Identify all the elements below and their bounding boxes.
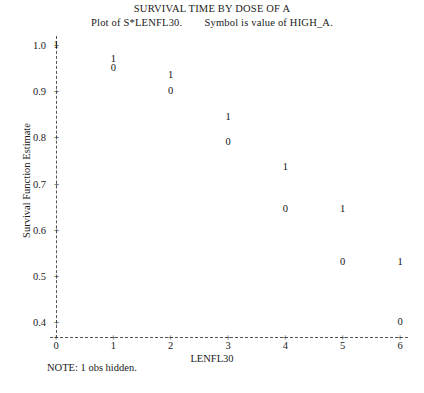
data-point-marker: 1 (50, 39, 62, 51)
data-point-marker: 0 (394, 316, 406, 328)
x-axis-tick-label: 5 (333, 340, 353, 352)
chart-subtitle: Plot of S*LENFL30.Symbol is value of HIG… (0, 16, 424, 29)
x-axis-tick-label: 4 (275, 340, 295, 352)
chart-title-block: SURVIVAL TIME BY DOSE OF A Plot of S*LEN… (0, 2, 424, 29)
data-point-marker: 1 (165, 69, 177, 81)
data-point-marker: 0 (337, 256, 349, 268)
subtitle-plot-spec: Plot of S*LENFL30. (91, 17, 182, 28)
page-title: SURVIVAL TIME BY DOSE OF A (0, 2, 424, 15)
y-axis-tick-mark: + (51, 317, 62, 328)
data-point-marker: 0 (107, 62, 119, 74)
y-axis-tick-mark: + (51, 86, 62, 97)
data-point-marker: 0 (165, 85, 177, 97)
y-axis-tick-mark: + (51, 179, 62, 190)
x-axis-tick-label: 2 (161, 340, 181, 352)
data-point-marker: 1 (279, 161, 291, 173)
x-axis-tick-label: 0 (46, 340, 66, 352)
data-point-marker: 0 (279, 203, 291, 215)
y-axis-tick-label: 1.0 (12, 40, 46, 51)
y-axis-tick-mark: + (51, 225, 62, 236)
y-axis-tick-label: 0.5 (12, 271, 46, 282)
chart-canvas: SURVIVAL TIME BY DOSE OF A Plot of S*LEN… (0, 0, 424, 393)
y-axis-tick-mark: + (51, 271, 62, 282)
y-axis-tick-mark: + (51, 132, 62, 143)
chart-note: NOTE: 1 obs hidden. (47, 362, 137, 373)
x-axis-tick-label: 6 (390, 340, 410, 352)
data-point-marker: 0 (222, 136, 234, 148)
subtitle-symbol-legend: Symbol is value of HIGH_A. (204, 17, 333, 28)
data-point-marker: 1 (337, 203, 349, 215)
y-axis-title: Survival Function Estimate (21, 91, 32, 271)
y-axis-tick-label: 0.4 (12, 317, 46, 328)
data-point-marker: 1 (222, 111, 234, 123)
x-axis-tick-label: 3 (218, 340, 238, 352)
x-axis-tick-label: 1 (103, 340, 123, 352)
data-point-marker: 1 (394, 256, 406, 268)
